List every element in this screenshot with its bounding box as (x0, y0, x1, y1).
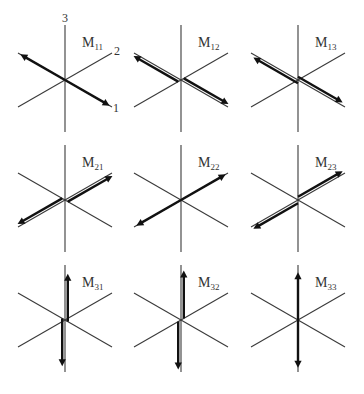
force-arrow-positive (298, 77, 338, 100)
component-M23: M23 (251, 145, 345, 252)
axis-label-1: 1 (113, 101, 119, 115)
component-M12: M12 (134, 25, 229, 132)
component-M21: M21 (18, 145, 113, 252)
force-arrow-negative-head (294, 361, 301, 368)
force-arrow-negative (258, 60, 298, 83)
component-label: M12 (198, 35, 219, 52)
force-arrow-positive (181, 177, 221, 200)
force-arrow-negative (141, 200, 181, 223)
component-label: M23 (315, 155, 337, 172)
moment-tensor-diagram: M11M12M13M21M22M23M31M32M33321 (0, 0, 364, 394)
component-label: M31 (82, 275, 103, 292)
force-arrow-negative (25, 57, 65, 80)
component-label: M11 (82, 35, 103, 52)
force-arrow-negative (138, 58, 178, 81)
component-label: M22 (198, 155, 219, 172)
component-M13: M13 (251, 25, 345, 132)
component-M11: M11 (18, 25, 112, 132)
component-label: M33 (315, 275, 337, 292)
axis-label-2: 2 (114, 44, 120, 58)
force-arrow-positive (298, 174, 338, 197)
component-label: M13 (315, 35, 337, 52)
component-M22: M22 (134, 145, 228, 252)
force-arrow-positive (65, 80, 105, 103)
component-M32: M32 (134, 265, 228, 372)
component-M31: M31 (18, 265, 112, 372)
force-arrow-negative (258, 203, 298, 226)
force-arrow-negative (22, 198, 62, 221)
component-M33: M33 (251, 265, 345, 372)
axis-label-3: 3 (62, 11, 68, 25)
force-arrow-positive (68, 178, 108, 201)
component-label: M21 (82, 155, 103, 172)
force-arrow-positive (184, 78, 224, 101)
component-label: M32 (198, 275, 219, 292)
force-arrow-positive-head (294, 272, 301, 279)
